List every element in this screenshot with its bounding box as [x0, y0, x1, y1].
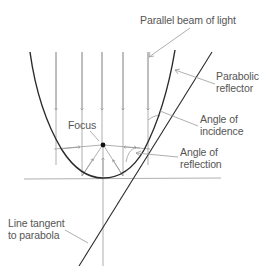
label-angle-incidence-2: incidence [200, 125, 243, 137]
label-leader-lines [65, 28, 215, 243]
label-angle-reflection-1: Angle of [180, 146, 218, 158]
label-focus: Focus [68, 119, 96, 131]
label-angle-incidence-1: Angle of [200, 113, 238, 125]
label-tangent-line-1: Line tangent [8, 217, 65, 229]
label-tangent-line-2: to parabola [8, 229, 59, 241]
label-parabolic-reflector-1: Parabolic [216, 70, 259, 82]
parabolic-reflector-curve [30, 50, 175, 178]
label-parallel-beam: Parallel beam of light [140, 14, 236, 26]
label-angle-reflection-2: reflection [180, 158, 222, 170]
label-parabolic-reflector-2: reflector [216, 82, 253, 94]
focus-point [101, 143, 106, 148]
horizontal-axis-line [24, 178, 221, 179]
incident-light-rays [56, 52, 148, 176]
